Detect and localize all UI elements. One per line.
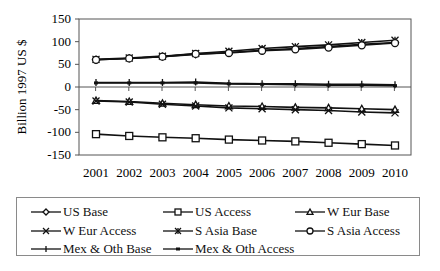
svg-text:Billion 1997 US $: Billion 1997 US $ <box>14 39 29 134</box>
legend-label: Mex & Oth Base <box>63 241 151 256</box>
x-tick-label: 2008 <box>316 165 342 180</box>
x-tick-label: 2005 <box>216 165 242 180</box>
dash-marker-icon <box>163 243 193 255</box>
legend-label: W Eur Base <box>327 204 390 219</box>
x-tick-label: 2007 <box>282 165 309 180</box>
plus-marker-icon <box>31 243 61 255</box>
x-tick-label: 2010 <box>382 165 408 180</box>
legend-item-w-eur-access: W Eur Access <box>31 223 136 238</box>
square-marker-icon <box>163 206 193 218</box>
x-tick-label: 2003 <box>149 165 175 180</box>
y-axis-ticks: 150100500-50-100-150 <box>47 11 79 162</box>
legend-item-s-asia-base: S Asia Base <box>163 223 257 238</box>
star-marker-icon <box>163 225 193 237</box>
series-w-eur-base <box>93 97 399 112</box>
legend-label: S Asia Access <box>327 223 400 238</box>
legend-item-us-base: US Base <box>31 204 108 219</box>
legend-label: W Eur Access <box>63 223 136 238</box>
legend-item-s-asia-access: S Asia Access <box>295 223 400 238</box>
x-tick-label: 2002 <box>116 165 142 180</box>
x-tick-label: 2004 <box>183 165 210 180</box>
y-tick-label: -100 <box>47 124 71 139</box>
legend-label: US Base <box>63 204 108 219</box>
legend-item-us-access: US Access <box>163 204 251 219</box>
legend: US BaseUS AccessW Eur BaseW Eur AccessS … <box>16 197 420 256</box>
y-tick-label: 150 <box>52 11 72 26</box>
series-us-access <box>93 131 399 149</box>
x-tick-label: 2006 <box>249 165 276 180</box>
y-tick-label: 100 <box>52 34 72 49</box>
line-chart: Billion 1997 US $ 150100500-50-100-150 2… <box>0 0 440 195</box>
x-marker-icon <box>31 225 61 237</box>
circle-marker-icon <box>295 225 325 237</box>
x-tick-label: 2009 <box>349 165 375 180</box>
y-tick-label: 50 <box>58 56 71 71</box>
diamond-marker-icon <box>31 206 61 218</box>
y-tick-label: -150 <box>47 147 71 162</box>
triangle-marker-icon <box>295 206 325 218</box>
y-tick-label: -50 <box>54 102 71 117</box>
y-axis-label: Billion 1997 US $ <box>14 39 29 134</box>
legend-item-mex-oth-access: Mex & Oth Access <box>163 241 294 256</box>
series-s-asia-base <box>93 37 399 63</box>
legend-label: US Access <box>195 204 251 219</box>
x-tick-label: 2001 <box>83 165 109 180</box>
legend-label: Mex & Oth Access <box>195 241 294 256</box>
legend-item-w-eur-base: W Eur Base <box>295 204 390 219</box>
legend-label: S Asia Base <box>195 223 257 238</box>
y-tick-label: 0 <box>65 79 72 94</box>
legend-item-mex-oth-base: Mex & Oth Base <box>31 241 151 256</box>
data-series <box>93 37 399 149</box>
